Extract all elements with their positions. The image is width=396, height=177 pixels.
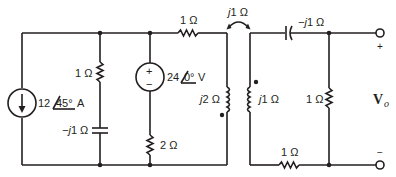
output-terminal-positive	[376, 29, 384, 37]
c-shunt-label: −j1 Ω	[62, 124, 88, 136]
svg-text:0°: 0°	[184, 71, 195, 83]
current-source-label: 12	[38, 97, 50, 109]
r-top-label: 1 Ω	[180, 14, 197, 26]
current-source-phasor: 45° A	[53, 96, 85, 109]
shunt-branch-rc	[92, 33, 108, 165]
output-minus-sign: −	[377, 147, 383, 158]
current-source-angle: 45°	[56, 97, 73, 109]
r-load-label: 1 Ω	[306, 93, 323, 105]
arrow-down-icon	[19, 106, 26, 113]
output-plus-sign: +	[377, 41, 383, 52]
svg-text:V: V	[198, 71, 206, 83]
mutual-coupling-arrow	[227, 22, 251, 30]
secondary-coil	[248, 33, 251, 165]
node-dot	[327, 31, 332, 36]
voltage-minus-sign: −	[146, 78, 152, 90]
mutual-label: j1 Ω	[226, 6, 248, 18]
output-terminal-negative	[376, 161, 384, 169]
voltage-source-label: 24 0° V	[167, 71, 206, 83]
circuit-diagram: 12 45° A 1 Ω −j1 Ω + − 24 0° V 2 Ω	[0, 0, 396, 177]
l-secondary-label: j1 Ω	[257, 93, 279, 105]
voltage-plus-sign: +	[146, 65, 152, 77]
l-primary-label: j2 Ω	[198, 93, 220, 105]
c-series-label: −j1 Ω	[298, 16, 324, 28]
r-bottom-label: 1 Ω	[281, 146, 298, 158]
current-source-unit: A	[77, 97, 85, 109]
node-dot	[327, 163, 332, 168]
svg-text:o: o	[384, 98, 389, 109]
current-source	[8, 89, 36, 117]
svg-text:24: 24	[167, 71, 179, 83]
svg-text:V: V	[373, 92, 383, 107]
polarity-dot-secondary	[254, 80, 258, 84]
r-series-source-label: 2 Ω	[160, 139, 177, 151]
output-voltage-label: V o	[373, 92, 389, 109]
r-shunt-top-label: 1 Ω	[75, 67, 92, 79]
resistor-top	[178, 30, 227, 36]
polarity-dot-primary	[220, 113, 224, 117]
